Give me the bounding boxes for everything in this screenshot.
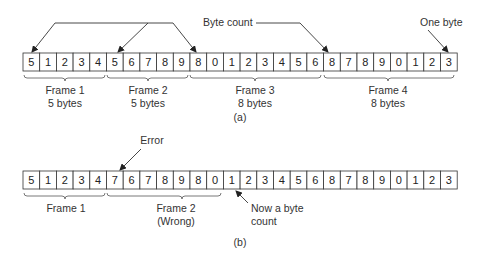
arrow-to-frame2 bbox=[118, 23, 148, 52]
frame2-brace bbox=[107, 75, 188, 81]
byte-value: 9 bbox=[179, 174, 185, 186]
byte-value: 2 bbox=[62, 56, 68, 68]
byte-value: 2 bbox=[429, 56, 435, 68]
byte-value: 5 bbox=[295, 56, 301, 68]
byte-row-b: 51234767898012345687890123 bbox=[23, 171, 457, 189]
byte-value: 8 bbox=[162, 56, 168, 68]
byte-value: 1 bbox=[45, 174, 51, 186]
now-count-label-1: Now a byte bbox=[251, 202, 304, 214]
arrow-to-frame3 bbox=[173, 23, 196, 52]
byte-value: 4 bbox=[279, 174, 285, 186]
frame3-name: Frame 3 bbox=[235, 84, 274, 96]
byte-value: 7 bbox=[145, 174, 151, 186]
byte-value: 3 bbox=[78, 56, 84, 68]
frame1-name-b: Frame 1 bbox=[46, 202, 85, 214]
byte-value: 2 bbox=[429, 174, 435, 186]
caption-b: (b) bbox=[234, 236, 247, 248]
byte-value: 8 bbox=[362, 56, 368, 68]
byte-value: 5 bbox=[28, 56, 34, 68]
byte-value: 1 bbox=[229, 174, 235, 186]
byte-value: 0 bbox=[396, 174, 402, 186]
byte-value: 9 bbox=[379, 174, 385, 186]
byte-value: 7 bbox=[145, 56, 151, 68]
byte-value: 6 bbox=[312, 174, 318, 186]
frame2-size: 5 bytes bbox=[131, 97, 165, 109]
byte-value: 3 bbox=[262, 174, 268, 186]
byte-value: 7 bbox=[112, 174, 118, 186]
byte-value: 5 bbox=[295, 174, 301, 186]
byte-value: 8 bbox=[195, 174, 201, 186]
byte-value: 5 bbox=[28, 174, 34, 186]
byte-value: 0 bbox=[212, 56, 218, 68]
one-byte-arrow bbox=[428, 30, 448, 52]
byte-value: 3 bbox=[446, 56, 452, 68]
byte-value: 1 bbox=[412, 174, 418, 186]
byte-value: 1 bbox=[412, 56, 418, 68]
now-count-label-2: count bbox=[251, 215, 277, 227]
byte-count-framing-diagram: 51234567898012345687890123 Byte count On… bbox=[0, 0, 481, 259]
frame4-size: 8 bytes bbox=[371, 97, 405, 109]
frame4-name: Frame 4 bbox=[368, 84, 407, 96]
byte-value: 4 bbox=[279, 56, 285, 68]
arrow-to-frame1 bbox=[32, 23, 55, 52]
byte-value: 8 bbox=[162, 174, 168, 186]
byte-value: 9 bbox=[179, 56, 185, 68]
frame2-note-b: (Wrong) bbox=[157, 215, 195, 227]
byte-value: 8 bbox=[362, 174, 368, 186]
byte-value: 8 bbox=[329, 56, 335, 68]
byte-value: 2 bbox=[245, 56, 251, 68]
byte-value: 3 bbox=[446, 174, 452, 186]
frame1-name: Frame 1 bbox=[45, 84, 84, 96]
arrow-to-frame4 bbox=[256, 23, 328, 52]
byte-value: 8 bbox=[329, 174, 335, 186]
byte-value: 3 bbox=[78, 174, 84, 186]
part-b: 51234767898012345687890123 Error Frame 1… bbox=[23, 134, 457, 248]
byte-value: 4 bbox=[95, 56, 101, 68]
frame2-brace-b bbox=[107, 193, 221, 199]
byte-value: 7 bbox=[346, 174, 352, 186]
byte-value: 5 bbox=[112, 56, 118, 68]
frame3-brace bbox=[190, 75, 321, 81]
byte-value: 3 bbox=[262, 56, 268, 68]
part-a: 51234567898012345687890123 Byte count On… bbox=[23, 16, 463, 123]
byte-value: 0 bbox=[396, 56, 402, 68]
byte-value: 6 bbox=[128, 56, 134, 68]
byte-value: 6 bbox=[128, 174, 134, 186]
frame2-name: Frame 2 bbox=[128, 84, 167, 96]
byte-value: 9 bbox=[379, 56, 385, 68]
frame3-size: 8 bytes bbox=[238, 97, 272, 109]
frame1-brace-b bbox=[24, 193, 105, 199]
byte-value: 2 bbox=[62, 174, 68, 186]
byte-value: 2 bbox=[245, 174, 251, 186]
one-byte-label: One byte bbox=[420, 16, 463, 28]
byte-value: 8 bbox=[195, 56, 201, 68]
byte-value: 1 bbox=[45, 56, 51, 68]
byte-count-arrows: Byte count bbox=[32, 16, 328, 52]
byte-value: 1 bbox=[229, 56, 235, 68]
caption-a: (a) bbox=[234, 111, 247, 123]
frame1-size: 5 bytes bbox=[48, 97, 82, 109]
byte-count-label: Byte count bbox=[203, 16, 253, 28]
frame1-brace bbox=[24, 75, 105, 81]
now-count-arrow bbox=[236, 191, 248, 203]
byte-value: 7 bbox=[346, 56, 352, 68]
byte-row-a: 51234567898012345687890123 bbox=[23, 53, 457, 71]
frame4-brace bbox=[324, 75, 454, 81]
byte-value: 0 bbox=[212, 174, 218, 186]
byte-value: 6 bbox=[312, 56, 318, 68]
error-label: Error bbox=[140, 134, 164, 146]
byte-value: 4 bbox=[95, 174, 101, 186]
error-arrow bbox=[120, 149, 141, 170]
frame2-name-b: Frame 2 bbox=[156, 202, 195, 214]
